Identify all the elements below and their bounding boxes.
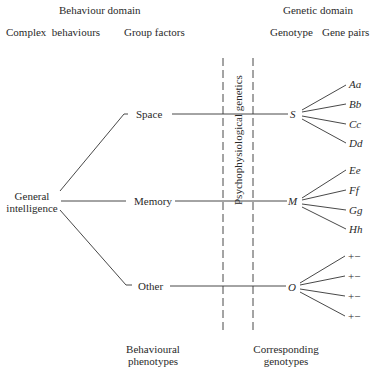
gene-pair-dd: Dd bbox=[349, 137, 362, 149]
node-general-intelligence-line1: General bbox=[4, 190, 60, 202]
footer-behavioural-phenotypes-line1: Behavioural bbox=[118, 343, 188, 355]
header-genetic-domain: Genetic domain bbox=[283, 4, 353, 16]
footer-corresponding-genotypes-line2: genotypes bbox=[246, 355, 326, 367]
divider-label-psychophysiological-genetics: Psychophysiological genetics bbox=[232, 75, 244, 205]
header-gene-pairs: Gene pairs bbox=[322, 26, 369, 38]
genotype-m: M bbox=[288, 195, 297, 207]
gene-pair-aa: Aa bbox=[349, 78, 361, 90]
gene-pair-unknown-3: +− bbox=[348, 290, 360, 302]
gene-pair-unknown-2: +− bbox=[348, 270, 360, 282]
gene-pair-bb: Bb bbox=[349, 98, 361, 110]
gene-pair-cc: Cc bbox=[349, 118, 361, 130]
gene-pair-ff: Ff bbox=[349, 184, 359, 196]
node-memory: Memory bbox=[134, 195, 172, 207]
gene-pair-gg: Gg bbox=[349, 204, 362, 216]
node-space: Space bbox=[136, 108, 162, 120]
header-group-factors: Group factors bbox=[124, 26, 185, 38]
footer-behavioural-phenotypes: Behavioural phenotypes bbox=[118, 343, 188, 367]
gene-pair-hh: Hh bbox=[349, 223, 362, 235]
diagram-lines bbox=[0, 0, 383, 375]
genotype-o: O bbox=[288, 281, 296, 293]
gene-pair-unknown-4: +− bbox=[348, 310, 360, 322]
node-general-intelligence-line2: intelligence bbox=[4, 202, 60, 214]
header-complex-behaviours: Complex behaviours bbox=[6, 26, 100, 38]
footer-corresponding-genotypes: Corresponding genotypes bbox=[246, 343, 326, 367]
header-genotype: Genotype bbox=[270, 26, 313, 38]
node-other: Other bbox=[138, 280, 163, 292]
footer-behavioural-phenotypes-line2: phenotypes bbox=[118, 355, 188, 367]
genotype-s: S bbox=[290, 108, 296, 120]
gene-pair-unknown-1: +− bbox=[348, 250, 360, 262]
header-behaviour-domain: Behaviour domain bbox=[59, 4, 141, 16]
gene-pair-ee: Ee bbox=[349, 164, 361, 176]
node-general-intelligence: General intelligence bbox=[4, 190, 60, 214]
footer-corresponding-genotypes-line1: Corresponding bbox=[246, 343, 326, 355]
